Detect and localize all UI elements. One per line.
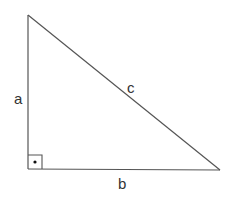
triangle-figure: a c b (0, 0, 231, 197)
right-triangle-diagram: a c b (0, 0, 231, 197)
right-angle-marker (28, 155, 42, 169)
right-angle-dot-icon (33, 160, 36, 163)
side-a-label: a (14, 90, 23, 107)
hypotenuse-c-line (28, 15, 220, 170)
side-c-label: c (127, 79, 135, 96)
side-b-label: b (118, 175, 126, 192)
side-b-line (28, 169, 220, 170)
